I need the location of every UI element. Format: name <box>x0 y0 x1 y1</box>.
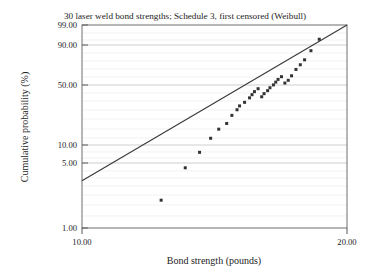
data-point <box>274 81 277 84</box>
data-point <box>280 75 283 78</box>
data-point <box>283 82 286 85</box>
data-point <box>303 58 306 61</box>
data-point <box>198 151 201 154</box>
y-tick-label-50: 50.00 <box>58 80 77 90</box>
data-point <box>184 166 187 169</box>
chart-title: 30 laser weld bond strengths; Schedule 3… <box>64 11 306 21</box>
figure-background <box>0 0 373 272</box>
y-tick-label-10: 10.00 <box>58 140 77 150</box>
x-tick-label-20: 20.00 <box>337 237 356 247</box>
data-point <box>243 101 246 104</box>
y-tick-label-99: 99.00 <box>58 20 77 30</box>
data-point <box>277 78 280 81</box>
data-point <box>251 93 254 96</box>
data-point <box>260 95 263 98</box>
data-point <box>287 79 290 82</box>
data-point <box>225 122 228 125</box>
x-axis-title: Bond strength (pounds) <box>167 255 261 267</box>
data-point <box>299 63 302 66</box>
data-point <box>272 83 275 86</box>
data-point <box>318 38 321 41</box>
data-point <box>268 86 271 89</box>
data-point <box>230 114 233 117</box>
data-point <box>290 74 293 77</box>
data-point <box>309 49 312 52</box>
data-point <box>248 96 251 99</box>
y-tick-label-5: 5.00 <box>62 158 77 168</box>
data-point <box>266 89 269 92</box>
data-point <box>257 87 260 90</box>
data-point <box>253 90 256 93</box>
y-axis-title: Cumulative probability (%) <box>19 72 31 183</box>
chart-canvas: 30 laser weld bond strengths; Schedule 3… <box>0 0 373 272</box>
y-tick-label-1: 1.00 <box>62 223 77 233</box>
x-tick-label-10: 10.00 <box>72 237 91 247</box>
data-point <box>294 68 297 71</box>
data-point <box>209 137 212 140</box>
data-point <box>263 92 266 95</box>
data-point <box>160 199 163 202</box>
weibull-probability-plot-figure: 30 laser weld bond strengths; Schedule 3… <box>0 0 373 272</box>
data-point <box>238 104 241 107</box>
data-point <box>236 108 239 111</box>
y-tick-label-90: 90.00 <box>58 40 77 50</box>
data-point <box>217 128 220 131</box>
